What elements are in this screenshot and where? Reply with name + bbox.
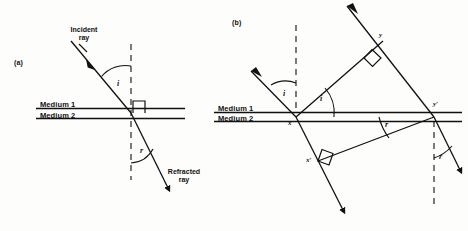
refracted-ray-label-line1: Refracted — [155, 168, 213, 176]
angle-label-i-wavefront-b: i — [320, 94, 322, 103]
angle-label-i-a: i — [117, 79, 119, 88]
refracted-ray-label-line2: ray — [155, 176, 213, 184]
wavefront-xprime-yprime-b — [318, 117, 434, 161]
panel-tag-b: (b) — [232, 19, 242, 26]
point-label-y: y — [379, 31, 382, 39]
medium-1-label-a: Medium 1 — [40, 100, 75, 109]
point-label-x-prime: x′ — [306, 156, 311, 164]
refraction-figure: (a) Incident ray Refracted ray Medium 1 … — [0, 0, 468, 231]
refracted-ray-yprime-b — [434, 117, 461, 172]
incident-ray-a — [71, 41, 131, 113]
medium-2-label-a: Medium 2 — [40, 111, 75, 120]
angle-label-r-wavefront-b: r — [385, 120, 388, 129]
angle-label-r-a: r — [140, 146, 143, 155]
medium-1-label-b: Medium 1 — [218, 104, 253, 113]
refracted-ray-label-a: Refracted ray — [155, 168, 213, 183]
incident-label-leader-a — [79, 44, 87, 52]
incident-ray-label-line2: ray — [56, 34, 112, 42]
right-angle-marker-y-b — [364, 50, 381, 67]
point-label-y-prime: y′ — [433, 100, 438, 108]
right-angle-marker-xprime-b — [318, 150, 333, 166]
incident-ray-1-b — [251, 71, 296, 117]
medium-2-label-b: Medium 2 — [218, 114, 253, 123]
incident-ray-label-line1: Incident — [56, 26, 112, 34]
angle-label-r-normal-b: r — [439, 152, 442, 161]
angle-arc-i-a — [102, 65, 132, 76]
angle-arc-i-normal-b — [271, 81, 296, 85]
point-label-x: x — [288, 119, 292, 127]
incident-ray-label-a: Incident ray — [56, 26, 112, 41]
angle-label-i-normal-b: i — [283, 89, 285, 98]
refracted-ray-x-b — [296, 117, 344, 212]
right-angle-marker-a — [133, 101, 145, 113]
panel-tag-a: (a) — [14, 59, 23, 66]
